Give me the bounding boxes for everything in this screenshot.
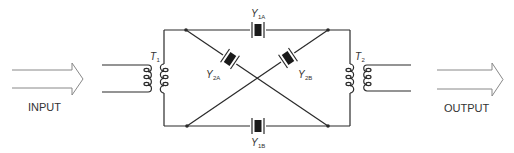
label-t1: T 1	[150, 51, 161, 63]
svg-text:2A: 2A	[213, 75, 220, 81]
svg-text:1B: 1B	[258, 143, 265, 149]
transformer-t1-primary	[102, 65, 151, 92]
output-label: OUTPUT	[444, 102, 490, 114]
label-y1a: Y 1A	[251, 8, 265, 20]
svg-text:2: 2	[362, 57, 366, 63]
output-arrow-icon	[437, 63, 503, 96]
label-y2b: Y 2B	[298, 69, 312, 81]
svg-text:1A: 1A	[258, 14, 265, 20]
label-y2a: Y 2A	[206, 69, 220, 81]
crystal-y1b-icon	[250, 118, 266, 134]
transformer-t2-secondary	[364, 65, 411, 91]
input-arrow-icon	[12, 63, 83, 95]
transformer-t2-primary	[346, 30, 354, 126]
transformer-t1-secondary	[160, 30, 168, 126]
svg-text:2B: 2B	[305, 75, 312, 81]
label-y1b: Y 1B	[251, 137, 265, 149]
crystal-y2a-icon	[219, 48, 241, 70]
svg-text:1: 1	[157, 57, 161, 63]
crystal-y2b-icon	[277, 47, 299, 69]
input-label: INPUT	[28, 101, 61, 113]
crystal-y1a-icon	[250, 22, 266, 38]
label-t2: T 2	[355, 51, 366, 63]
lattice-filter-diagram: INPUT OUTPUT	[0, 0, 514, 153]
